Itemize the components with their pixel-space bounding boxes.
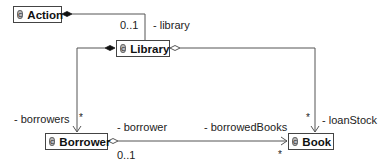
class-name: Book	[302, 136, 331, 148]
edge-borrower-book	[108, 137, 287, 145]
class-name: Action	[27, 9, 63, 21]
multiplicity-borrower: 0..1	[117, 150, 135, 161]
class-icon: C	[17, 10, 23, 19]
class-library[interactable]: C Library	[116, 40, 170, 57]
class-icon: C	[49, 137, 55, 146]
multiplicity-library: 0..1	[120, 20, 138, 31]
class-action[interactable]: C Action	[13, 6, 62, 23]
filled-diamond-icon	[62, 12, 72, 17]
role-borrowers: - borrowers	[14, 114, 70, 125]
role-borrowedbooks: - borrowedBooks	[204, 122, 287, 133]
class-name: Library	[130, 43, 169, 55]
multiplicity-loanstock: *	[306, 113, 310, 123]
class-borrower[interactable]: C Borrower	[45, 133, 108, 150]
role-borrower: - borrower	[117, 122, 167, 133]
multiplicity-borrowers: *	[79, 113, 83, 123]
class-book[interactable]: C Book	[288, 133, 334, 150]
filled-diamond-icon	[105, 46, 115, 51]
edge-library-loanstock	[170, 46, 319, 133]
hollow-diamond-icon	[170, 46, 180, 51]
role-library: - library	[153, 20, 190, 31]
role-loanstock: - loanStock	[322, 115, 377, 126]
class-icon: C	[292, 137, 298, 146]
class-icon: C	[120, 44, 126, 53]
class-name: Borrower	[59, 136, 110, 148]
multiplicity-borrowedbooks: *	[278, 150, 282, 160]
